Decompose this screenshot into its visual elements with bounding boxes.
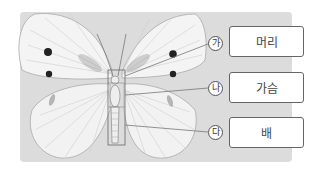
lower-right-wing bbox=[124, 84, 196, 158]
label-thorax: 가슴 bbox=[256, 79, 278, 96]
wing-spot bbox=[44, 48, 52, 56]
marker-thorax: 나 bbox=[208, 81, 223, 96]
label-head: 머리 bbox=[256, 33, 278, 50]
label-box-thorax: 가슴 bbox=[229, 72, 304, 103]
marker-head: 가 bbox=[208, 36, 223, 51]
wing-spot bbox=[46, 71, 52, 77]
label-box-abdomen: 배 bbox=[229, 117, 304, 148]
wing-spot bbox=[170, 71, 176, 77]
label-abdomen: 배 bbox=[261, 124, 272, 141]
label-box-head: 머리 bbox=[229, 26, 304, 57]
marker-abdomen: 다 bbox=[208, 125, 223, 140]
lower-left-wing bbox=[30, 84, 110, 158]
butterfly-thorax bbox=[110, 85, 120, 107]
